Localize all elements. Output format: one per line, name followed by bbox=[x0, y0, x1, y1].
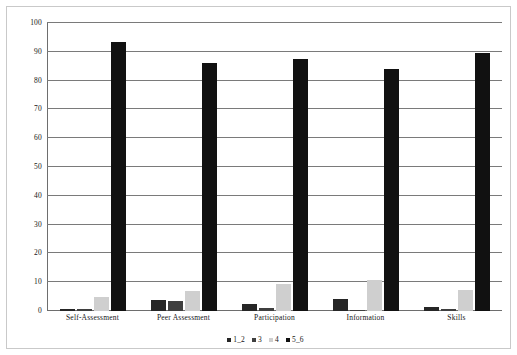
bar bbox=[424, 307, 439, 311]
x-tick-label: Information bbox=[320, 313, 411, 322]
legend-entry: 4 bbox=[269, 335, 279, 344]
y-tick-label: 20 bbox=[34, 248, 42, 257]
bar bbox=[384, 69, 399, 311]
y-tick-label: 50 bbox=[34, 162, 42, 171]
y-tick-label: 100 bbox=[30, 18, 42, 27]
plot-area: 0102030405060708090100 bbox=[47, 23, 502, 311]
bar bbox=[60, 309, 75, 311]
x-tick-label: Participation bbox=[229, 313, 320, 322]
y-tick-label: 10 bbox=[34, 277, 42, 286]
legend-label: 3 bbox=[258, 335, 262, 344]
y-tick-label: 90 bbox=[34, 46, 42, 55]
legend-entry: 1_2 bbox=[227, 335, 245, 344]
bar bbox=[441, 309, 456, 311]
bar bbox=[242, 304, 257, 311]
legend-entry: 3 bbox=[252, 335, 262, 344]
bar bbox=[259, 308, 274, 311]
bar bbox=[77, 309, 92, 311]
chart-legend: 1_2345_6 bbox=[7, 335, 517, 344]
y-tick-label: 40 bbox=[34, 190, 42, 199]
y-tick-label: 30 bbox=[34, 219, 42, 228]
bar bbox=[458, 290, 473, 311]
bar-chart-figure: 0102030405060708090100 Self-AssessmentPe… bbox=[0, 0, 517, 355]
x-tick-label: Peer Assessment bbox=[138, 313, 229, 322]
x-tick-label: Skills bbox=[411, 313, 502, 322]
legend-label: 4 bbox=[275, 335, 279, 344]
bar-group bbox=[229, 23, 320, 311]
bar bbox=[151, 300, 166, 311]
bar bbox=[168, 301, 183, 311]
legend-swatch-icon bbox=[269, 338, 273, 342]
bars-layer bbox=[47, 23, 502, 311]
y-tick-label: 70 bbox=[34, 104, 42, 113]
legend-label: 1_2 bbox=[233, 335, 245, 344]
legend-swatch-icon bbox=[227, 338, 231, 342]
bar bbox=[185, 291, 200, 311]
bar-group bbox=[411, 23, 502, 311]
bar-group bbox=[320, 23, 411, 311]
y-tick-label: 60 bbox=[34, 133, 42, 142]
legend-entry: 5_6 bbox=[286, 335, 304, 344]
bar bbox=[475, 53, 490, 311]
bar bbox=[333, 299, 348, 311]
bar-group bbox=[138, 23, 229, 311]
legend-swatch-icon bbox=[286, 338, 290, 342]
bar bbox=[202, 63, 217, 311]
bar bbox=[367, 280, 382, 311]
x-tick-label: Self-Assessment bbox=[47, 313, 138, 322]
legend-label: 5_6 bbox=[292, 335, 304, 344]
x-axis-labels: Self-AssessmentPeer AssessmentParticipat… bbox=[47, 313, 502, 322]
bar bbox=[276, 284, 291, 311]
bar bbox=[350, 310, 365, 311]
y-tick-label: 80 bbox=[34, 75, 42, 84]
bar-group bbox=[47, 23, 138, 311]
legend-swatch-icon bbox=[252, 338, 256, 342]
bar bbox=[293, 59, 308, 311]
bar bbox=[94, 297, 109, 311]
y-tick-label: 0 bbox=[38, 306, 42, 315]
bar bbox=[111, 42, 126, 311]
chart-frame: 0102030405060708090100 Self-AssessmentPe… bbox=[6, 6, 511, 349]
